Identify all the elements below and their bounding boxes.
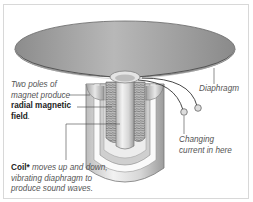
poles-text-end: .: [28, 112, 30, 121]
current-label: Changing current in here: [179, 135, 232, 156]
current-text-2: current in here: [179, 146, 232, 155]
poles-text-2: magnet produce: [11, 91, 70, 100]
terminal-2: [195, 105, 202, 112]
coil-text-2: vibrating diaphragm to: [11, 174, 92, 183]
centre-pole: [116, 82, 134, 149]
diaphragm-text: Diaphragm: [199, 84, 239, 93]
terminal-1: [181, 109, 188, 116]
poles-text-1: Two poles of: [11, 80, 57, 89]
coil-text-bold: Coil*: [11, 163, 30, 172]
coil-label: Coil* moves up and down, vibrating diaph…: [11, 163, 108, 195]
poles-text-bold: radial magnetic: [11, 101, 71, 110]
poles-text-bold-2: field: [11, 112, 28, 121]
magnet-poles-label: Two poles of magnet produce radial magne…: [11, 80, 71, 122]
diaphragm-label: Diaphragm: [199, 84, 239, 95]
current-text-1: Changing: [179, 135, 214, 144]
coil-text-3: produce sound waves.: [11, 184, 93, 193]
coil-text-1: moves up and down,: [30, 163, 108, 172]
